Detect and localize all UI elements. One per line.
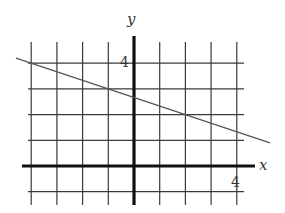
x-tick-label-4: 4 — [231, 174, 240, 190]
x-axis-label: x — [259, 156, 268, 174]
coordinate-plane: x y 4 4 — [0, 0, 285, 213]
y-tick-label-4: 4 — [120, 54, 129, 70]
plotted-line — [16, 58, 270, 143]
line-y-equals-neg-third-x-plus-8-thirds — [16, 58, 270, 143]
y-axis-label: y — [126, 10, 136, 28]
